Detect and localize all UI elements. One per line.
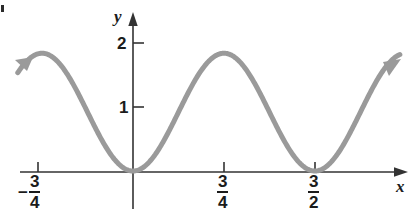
y-axis bbox=[128, 12, 137, 209]
fraction: 3 4 bbox=[29, 173, 40, 209]
y-tick-marks bbox=[133, 43, 144, 107]
y-tick-label-1: 1 bbox=[119, 99, 128, 116]
x-tick-label-three-quarters: 3 4 bbox=[217, 173, 228, 209]
fraction: 3 2 bbox=[308, 173, 319, 209]
function-curve bbox=[15, 53, 401, 171]
x-axis-label: x bbox=[396, 178, 405, 195]
x-tick-label-neg-three-quarters: − 3 4 bbox=[18, 173, 40, 209]
y-tick-label-2: 2 bbox=[117, 35, 126, 52]
plot-canvas bbox=[0, 0, 413, 209]
minus-sign: − bbox=[18, 184, 28, 201]
x-tick-marks bbox=[38, 162, 315, 172]
x-axis bbox=[20, 167, 408, 177]
right-end-arrow bbox=[383, 59, 401, 76]
fraction: 3 4 bbox=[217, 173, 228, 209]
x-tick-label-three-halves: 3 2 bbox=[308, 173, 319, 209]
graph-figure: 2 1 − 3 4 3 4 3 2 y x bbox=[0, 0, 413, 209]
y-axis-label: y bbox=[114, 8, 122, 25]
